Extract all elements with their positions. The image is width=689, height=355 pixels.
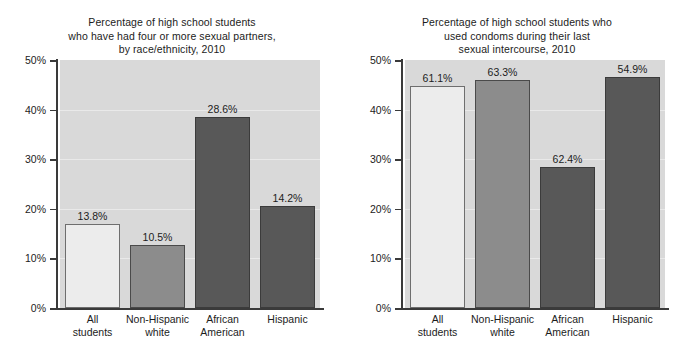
- bar-value-label-left-0: 13.8%: [57, 210, 128, 224]
- y-tick-label-30%: 30%: [0, 153, 46, 165]
- chart-title-right-line-3: sexual intercourse, 2010: [355, 43, 679, 57]
- chart-title-right-line-2: used condoms during their last: [355, 30, 679, 44]
- chart-title-left-line-1: Percentage of high school students: [10, 16, 334, 30]
- x-axis-right: [401, 308, 669, 310]
- y-tick-mark-0%: [50, 308, 56, 310]
- x-category-label-right-3: Hispanic: [593, 313, 672, 326]
- bar-value-label-left-1: 10.5%: [122, 231, 193, 245]
- y-tick-label-10%: 10%: [0, 252, 46, 264]
- chart-title-left: Percentage of high school students who h…: [10, 16, 334, 57]
- bar-right-2[interactable]: [540, 167, 595, 308]
- figure-two-bar-charts: Percentage of high school students who h…: [0, 0, 689, 355]
- y-tick-mark-20%: [50, 209, 56, 211]
- x-axis-left: [56, 308, 324, 310]
- y-tick-mark-50%: [50, 60, 56, 62]
- chart-title-right-line-1: Percentage of high school students who: [355, 16, 679, 30]
- x-category-label-line: Hispanic: [248, 313, 327, 326]
- y-tick-label-40%: 40%: [0, 104, 46, 116]
- bar-right-0[interactable]: [410, 86, 465, 308]
- bar-left-2[interactable]: [195, 117, 250, 308]
- chart-title-left-line-2: who have had four or more sexual partner…: [10, 30, 334, 44]
- x-category-label-line: American: [528, 326, 607, 339]
- bar-left-0[interactable]: [65, 224, 120, 308]
- y-tick-mark-40%: [395, 110, 401, 112]
- y-axis-right: [401, 59, 403, 309]
- y-tick-label-0%: 0%: [0, 302, 46, 314]
- y-tick-mark-50%: [395, 60, 401, 62]
- y-tick-mark-0%: [395, 308, 401, 310]
- y-tick-label-0%: 0%: [345, 302, 391, 314]
- chart-panel-left: Percentage of high school students who h…: [0, 0, 344, 355]
- chart-panel-right: Percentage of high school students who u…: [345, 0, 689, 355]
- bar-value-label-right-2: 62.4%: [532, 153, 603, 167]
- bar-left-3[interactable]: [260, 206, 315, 308]
- bar-value-label-right-3: 54.9%: [597, 63, 668, 77]
- bar-right-3[interactable]: [605, 77, 660, 308]
- y-tick-label-50%: 50%: [0, 54, 46, 66]
- gridline-30%: [60, 159, 320, 160]
- y-tick-mark-10%: [50, 258, 56, 260]
- bar-value-label-right-0: 61.1%: [402, 72, 473, 86]
- x-category-label-line: American: [183, 326, 262, 339]
- y-tick-label-20%: 20%: [0, 203, 46, 215]
- x-category-label-line: Hispanic: [593, 313, 672, 326]
- y-tick-label-40%: 40%: [345, 104, 391, 116]
- y-axis-left: [56, 59, 58, 309]
- chart-title-left-line-3: by race/ethnicity, 2010: [10, 43, 334, 57]
- bar-right-1[interactable]: [475, 80, 530, 308]
- bar-value-label-left-3: 14.2%: [252, 192, 323, 206]
- bar-value-label-right-1: 63.3%: [467, 66, 538, 80]
- y-tick-mark-30%: [50, 159, 56, 161]
- bar-left-1[interactable]: [130, 245, 185, 308]
- y-tick-label-30%: 30%: [345, 153, 391, 165]
- y-tick-label-50%: 50%: [345, 54, 391, 66]
- y-tick-mark-10%: [395, 258, 401, 260]
- plot-area-right: [405, 60, 665, 308]
- y-tick-mark-20%: [395, 209, 401, 211]
- y-tick-mark-40%: [50, 110, 56, 112]
- bar-value-label-left-2: 28.6%: [187, 103, 258, 117]
- chart-title-right: Percentage of high school students who u…: [355, 16, 679, 57]
- y-tick-mark-30%: [395, 159, 401, 161]
- x-category-label-left-3: Hispanic: [248, 313, 327, 326]
- y-tick-label-20%: 20%: [345, 203, 391, 215]
- y-tick-label-10%: 10%: [345, 252, 391, 264]
- plot-area-left: [60, 60, 320, 308]
